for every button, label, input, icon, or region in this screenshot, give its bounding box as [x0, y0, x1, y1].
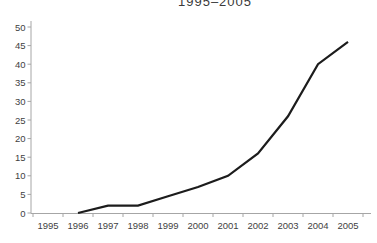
x-tick-label: 1996 — [67, 220, 88, 231]
x-tick-label: 1995 — [37, 220, 58, 231]
y-tick-label: 50 — [15, 22, 26, 33]
x-tick-label: 1998 — [127, 220, 148, 231]
y-tick-label: 45 — [15, 40, 26, 51]
y-tick-label: 25 — [15, 115, 26, 126]
line-chart: 1995–2005 051015202530354045501995199619… — [0, 0, 377, 243]
x-tick-label: 2004 — [307, 220, 328, 231]
x-tick-label: 2005 — [337, 220, 358, 231]
x-tick-label: 1997 — [97, 220, 118, 231]
y-tick-label: 15 — [15, 152, 26, 163]
x-tick-label: 1999 — [157, 220, 178, 231]
y-tick-label: 35 — [15, 77, 26, 88]
x-tick-label: 2003 — [277, 220, 298, 231]
y-tick-label: 0 — [20, 208, 25, 219]
y-tick-label: 10 — [15, 170, 26, 181]
y-tick-label: 5 — [20, 189, 25, 200]
x-tick-label: 2000 — [187, 220, 208, 231]
y-tick-label: 40 — [15, 59, 26, 70]
data-line — [78, 42, 348, 213]
x-tick-label: 2001 — [217, 220, 238, 231]
plot-area: 0510152025303540455019951996199719981999… — [0, 0, 377, 243]
y-tick-label: 20 — [15, 133, 26, 144]
y-tick-label: 30 — [15, 96, 26, 107]
x-tick-label: 2002 — [247, 220, 268, 231]
